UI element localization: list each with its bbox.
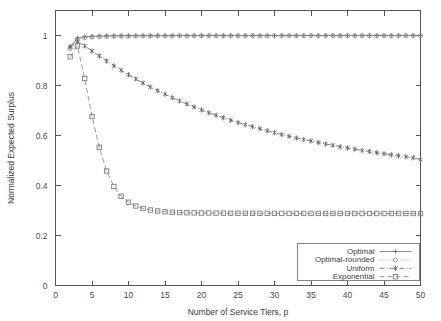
x-tick-label: 20: [197, 290, 207, 300]
marker-square: [104, 169, 108, 173]
axes-layer: [56, 11, 421, 286]
x-tick-label: 30: [270, 290, 280, 300]
x-axis-title: Number of Service Tiers, p: [188, 307, 289, 317]
chart-figure: 0510152025303540455000.20.40.60.81Number…: [0, 0, 441, 321]
x-tick-label: 0: [53, 290, 58, 300]
series-layer: [68, 33, 423, 216]
x-tick-label: 50: [416, 290, 426, 300]
x-tick-label: 40: [343, 290, 353, 300]
y-axis-title: Normalized Expected Surplus: [6, 92, 16, 204]
y-tick-label: 0.6: [36, 131, 48, 141]
y-tick-label: 1: [43, 31, 48, 41]
x-tick-label: 10: [124, 290, 134, 300]
series-path: [70, 42, 420, 160]
x-tick-label: 5: [90, 290, 95, 300]
y-tick-label: 0.4: [36, 181, 48, 191]
chart-legend: OptimalOptimal-roundedUniformExponential: [298, 243, 420, 281]
plot-frame: [56, 11, 421, 286]
y-tick-label: 0.8: [36, 81, 48, 91]
x-tick-label: 25: [233, 290, 243, 300]
x-tick-label: 15: [160, 290, 170, 300]
x-tick-label: 35: [306, 290, 316, 300]
x-tick-label: 45: [379, 290, 389, 300]
y-tick-label: 0: [43, 281, 48, 291]
legend-label: Exponential: [333, 272, 375, 281]
line-chart: 0510152025303540455000.20.40.60.81Number…: [0, 0, 441, 321]
y-tick-label: 0.2: [36, 231, 48, 241]
series-uniform: [68, 39, 422, 162]
